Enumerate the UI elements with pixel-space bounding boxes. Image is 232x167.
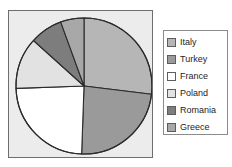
- plot-panel: [8, 10, 153, 158]
- pie-svg: [9, 11, 152, 157]
- pie-slice-italy[interactable]: [84, 18, 152, 94]
- legend-label-greece: Greece: [180, 122, 210, 132]
- legend-swatch-greece: [167, 123, 176, 132]
- legend-swatch-romania: [167, 106, 176, 115]
- legend-item-greece[interactable]: Greece: [167, 119, 227, 135]
- pie-slice-turkey[interactable]: [82, 86, 152, 154]
- legend-item-italy[interactable]: Italy: [167, 34, 227, 50]
- pie-chart-figure: Italy Turkey France Poland Romania Greec…: [0, 0, 232, 167]
- chart-legend: Italy Turkey France Poland Romania Greec…: [163, 30, 228, 135]
- legend-label-poland: Poland: [180, 88, 208, 98]
- legend-item-france[interactable]: France: [167, 68, 227, 84]
- legend-item-poland[interactable]: Poland: [167, 85, 227, 101]
- legend-swatch-italy: [167, 38, 176, 47]
- legend-swatch-turkey: [167, 55, 176, 64]
- legend-item-romania[interactable]: Romania: [167, 102, 227, 118]
- legend-label-france: France: [180, 71, 208, 81]
- legend-swatch-poland: [167, 89, 176, 98]
- pie-slice-group: [16, 18, 152, 154]
- pie-slice-france[interactable]: [16, 86, 84, 154]
- legend-label-romania: Romania: [180, 105, 216, 115]
- legend-item-turkey[interactable]: Turkey: [167, 51, 227, 67]
- legend-label-italy: Italy: [180, 37, 197, 47]
- legend-label-turkey: Turkey: [180, 54, 207, 64]
- legend-swatch-france: [167, 72, 176, 81]
